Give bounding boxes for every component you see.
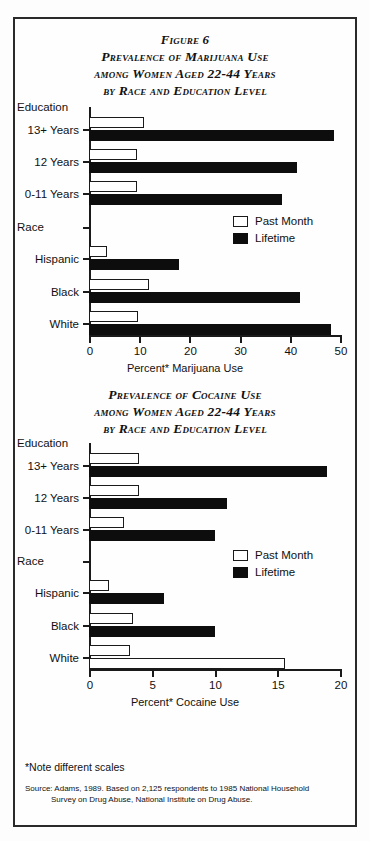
figure-number: Figure 6 bbox=[15, 31, 355, 48]
x-tick-label: 40 bbox=[276, 345, 306, 357]
x-tick-label: 20 bbox=[326, 679, 356, 691]
cocaine-title-line-2: among Women Aged 22-44 Years bbox=[15, 403, 355, 420]
marijuana-plot-area: 01020304050Percent* Marijuana Use13+ Yea… bbox=[15, 103, 355, 378]
legend-swatch-past-month bbox=[233, 216, 248, 227]
bar-past-month bbox=[89, 149, 137, 160]
bar-lifetime bbox=[89, 259, 179, 270]
bar-lifetime bbox=[89, 498, 227, 509]
x-tick-label: 0 bbox=[75, 679, 105, 691]
bar-lifetime bbox=[89, 292, 300, 303]
bar-past-month bbox=[89, 580, 109, 591]
x-tick bbox=[340, 671, 342, 677]
bar-lifetime bbox=[89, 658, 285, 669]
x-tick bbox=[290, 337, 292, 343]
group-label-education: Education bbox=[17, 437, 68, 449]
category-label: 12 Years bbox=[34, 492, 79, 504]
group-label-race: Race bbox=[17, 555, 44, 567]
x-tick bbox=[215, 671, 217, 677]
legend-swatch-lifetime bbox=[233, 567, 248, 578]
bar-lifetime bbox=[89, 466, 327, 477]
figure-frame: Figure 6 Prevalence of Marijuana Use amo… bbox=[13, 17, 357, 827]
x-tick-label: 20 bbox=[175, 345, 205, 357]
group-label-education: Education bbox=[17, 101, 68, 113]
legend-item-lifetime: Lifetime bbox=[233, 566, 313, 578]
cocaine-title-block: Prevalence of Cocaine Use among Women Ag… bbox=[15, 380, 355, 437]
x-tick-label: 10 bbox=[201, 679, 231, 691]
legend-swatch-past-month bbox=[233, 550, 248, 561]
x-axis bbox=[89, 335, 342, 337]
x-tick-label: 50 bbox=[326, 345, 356, 357]
x-tick bbox=[340, 337, 342, 343]
bar-past-month bbox=[89, 645, 130, 656]
x-axis-title: Percent* Marijuana Use bbox=[15, 362, 355, 374]
figure-title-line-1: Prevalence of Marijuana Use bbox=[15, 48, 355, 65]
chart-legend: Past MonthLifetime bbox=[233, 215, 313, 249]
figure-title-line-2: among Women Aged 22-44 Years bbox=[15, 65, 355, 82]
x-tick bbox=[89, 337, 91, 343]
cocaine-plot-area: 05101520Percent* Cocaine Use13+ Years12 … bbox=[15, 439, 355, 711]
bar-past-month bbox=[89, 517, 124, 528]
x-tick bbox=[277, 671, 279, 677]
legend-label: Past Month bbox=[255, 549, 313, 561]
legend-label: Past Month bbox=[255, 215, 313, 227]
source-continuation: Survey on Drug Abuse, National Institute… bbox=[25, 795, 347, 806]
bar-past-month bbox=[89, 311, 138, 322]
category-label: Hispanic bbox=[35, 587, 79, 599]
bar-past-month bbox=[89, 246, 107, 257]
cocaine-title-line-1: Prevalence of Cocaine Use bbox=[15, 386, 355, 403]
legend-swatch-lifetime bbox=[233, 233, 248, 244]
x-tick bbox=[152, 671, 154, 677]
bar-past-month bbox=[89, 613, 133, 624]
group-label-race: Race bbox=[17, 221, 44, 233]
bar-past-month bbox=[89, 485, 139, 496]
legend-item-past-month: Past Month bbox=[233, 549, 313, 561]
bar-past-month bbox=[89, 279, 149, 290]
legend-label: Lifetime bbox=[255, 566, 295, 578]
source-lead: Source: Adams, 1989. Based on 2,125 resp… bbox=[25, 784, 309, 793]
figure-title-line-3: by Race and Education Level bbox=[15, 82, 355, 99]
category-label: Hispanic bbox=[35, 253, 79, 265]
marijuana-chart: 01020304050Percent* Marijuana Use13+ Yea… bbox=[15, 103, 355, 378]
bar-lifetime bbox=[89, 324, 331, 335]
category-label: 13+ Years bbox=[28, 460, 79, 472]
category-label: White bbox=[50, 652, 79, 664]
y-tick-group bbox=[83, 561, 90, 563]
source-note: Source: Adams, 1989. Based on 2,125 resp… bbox=[25, 784, 347, 805]
x-tick bbox=[139, 337, 141, 343]
category-label: Black bbox=[51, 620, 79, 632]
bar-past-month bbox=[89, 453, 139, 464]
bar-lifetime bbox=[89, 530, 215, 541]
x-tick bbox=[240, 337, 242, 343]
figure-page: Figure 6 Prevalence of Marijuana Use amo… bbox=[0, 0, 370, 841]
bar-past-month bbox=[89, 117, 144, 128]
category-label: White bbox=[50, 318, 79, 330]
cocaine-chart: 05101520Percent* Cocaine Use13+ Years12 … bbox=[15, 439, 355, 711]
cocaine-title-line-3: by Race and Education Level bbox=[15, 420, 355, 437]
legend-item-past-month: Past Month bbox=[233, 215, 313, 227]
legend-label: Lifetime bbox=[255, 232, 295, 244]
category-label: Black bbox=[51, 286, 79, 298]
bar-lifetime bbox=[89, 626, 215, 637]
x-tick-label: 10 bbox=[125, 345, 155, 357]
bar-past-month bbox=[89, 181, 137, 192]
x-tick bbox=[189, 337, 191, 343]
x-tick bbox=[89, 671, 91, 677]
category-label: 0-11 Years bbox=[25, 188, 79, 200]
scales-note: *Note different scales bbox=[25, 761, 125, 773]
bar-lifetime bbox=[89, 130, 334, 141]
category-label: 13+ Years bbox=[28, 124, 79, 136]
bar-lifetime bbox=[89, 194, 282, 205]
x-tick-label: 15 bbox=[263, 679, 293, 691]
category-label: 0-11 Years bbox=[25, 524, 79, 536]
legend-item-lifetime: Lifetime bbox=[233, 232, 313, 244]
bar-lifetime bbox=[89, 162, 297, 173]
figure-title-block: Figure 6 Prevalence of Marijuana Use amo… bbox=[15, 19, 355, 99]
x-tick-label: 30 bbox=[226, 345, 256, 357]
bar-lifetime bbox=[89, 593, 164, 604]
chart-legend: Past MonthLifetime bbox=[233, 549, 313, 583]
x-axis-title: Percent* Cocaine Use bbox=[15, 696, 355, 708]
x-tick-label: 0 bbox=[75, 345, 105, 357]
y-tick-group bbox=[83, 227, 90, 229]
category-label: 12 Years bbox=[34, 156, 79, 168]
x-tick-label: 5 bbox=[138, 679, 168, 691]
